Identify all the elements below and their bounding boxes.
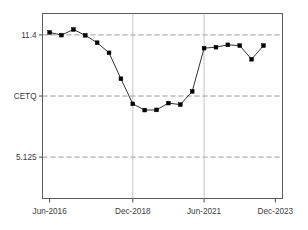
- y-tick-label-2: 5.125: [16, 153, 37, 162]
- y-tick-label-0: 11.4: [21, 31, 37, 40]
- data-point-14: [214, 45, 218, 49]
- x-tick-label-0: Jun-2016: [33, 207, 68, 216]
- y-tick-label-1: CETQ: [14, 92, 37, 101]
- data-point-2: [71, 28, 75, 32]
- x-tick-label-1: Dec-2018: [115, 207, 151, 216]
- data-point-6: [119, 77, 123, 81]
- x-tick-label-3: Dec-2023: [258, 207, 294, 216]
- data-point-16: [238, 44, 242, 48]
- data-point-7: [131, 102, 135, 106]
- data-point-0: [48, 30, 52, 34]
- line-chart: 11.4CETQ5.125 Jun-2016Dec-2018Jun-2021De…: [0, 0, 308, 230]
- data-point-3: [83, 33, 87, 37]
- data-point-12: [190, 89, 194, 93]
- chart-background: [0, 0, 308, 230]
- data-point-9: [155, 108, 159, 112]
- data-point-11: [178, 103, 182, 107]
- data-point-13: [202, 46, 206, 50]
- data-point-17: [250, 57, 254, 61]
- data-point-15: [226, 43, 230, 47]
- data-point-10: [167, 101, 171, 105]
- chart-container: 11.4CETQ5.125 Jun-2016Dec-2018Jun-2021De…: [0, 0, 308, 230]
- x-tick-label-2: Jun-2021: [187, 207, 222, 216]
- data-point-8: [143, 108, 147, 112]
- data-point-18: [262, 44, 266, 48]
- data-point-5: [107, 51, 111, 55]
- data-point-1: [60, 33, 64, 37]
- data-point-4: [95, 41, 99, 45]
